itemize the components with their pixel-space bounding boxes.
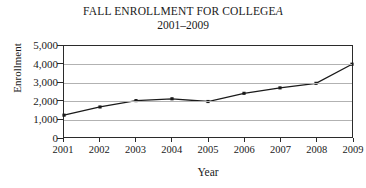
gridline bbox=[64, 101, 352, 102]
y-axis-tick-mark bbox=[57, 82, 63, 83]
data-point-marker bbox=[242, 92, 245, 95]
series-polyline bbox=[64, 64, 352, 115]
data-point-marker bbox=[98, 105, 101, 108]
y-axis-tick-label: 2,000 bbox=[0, 96, 58, 107]
data-point-marker bbox=[62, 114, 65, 117]
data-series-line bbox=[64, 46, 352, 137]
y-axis-tick-mark bbox=[57, 100, 63, 101]
chart-subtitle: 2001–2009 bbox=[0, 18, 366, 32]
y-axis-tick-label: 0 bbox=[0, 133, 58, 144]
x-axis-tick-mark bbox=[208, 138, 209, 142]
x-axis-title: Year bbox=[63, 166, 353, 178]
x-axis-tick-mark bbox=[244, 138, 245, 142]
page-title: FALL ENROLLMENT FOR COLLEGEA bbox=[0, 4, 366, 18]
gridline bbox=[64, 120, 352, 121]
x-axis-tick-mark bbox=[135, 138, 136, 142]
x-axis-tick-mark bbox=[171, 138, 172, 142]
data-point-marker bbox=[278, 86, 281, 89]
x-axis-tick-mark bbox=[63, 138, 64, 142]
x-axis-tick-mark bbox=[280, 138, 281, 142]
chart-title-college-letter: A bbox=[276, 5, 283, 17]
x-axis-tick-label: 2002 bbox=[79, 144, 119, 156]
x-axis-tick-label: 2001 bbox=[43, 144, 83, 156]
x-axis-tick-label: 2009 bbox=[333, 144, 366, 156]
x-axis-tick-mark bbox=[99, 138, 100, 142]
enrollment-line-chart: FALL ENROLLMENT FOR COLLEGEA 2001–2009 E… bbox=[0, 0, 366, 188]
gridline bbox=[64, 64, 352, 65]
x-axis-tick-label: 2007 bbox=[261, 144, 301, 156]
y-axis-tick-label: 3,000 bbox=[0, 77, 58, 88]
x-axis-tick-label: 2008 bbox=[297, 144, 337, 156]
x-axis-tick-mark bbox=[353, 138, 354, 142]
gridline bbox=[64, 83, 352, 84]
y-axis-tick-mark bbox=[57, 63, 63, 64]
plot-area bbox=[63, 45, 353, 138]
y-axis-tick-label: 1,000 bbox=[0, 114, 58, 125]
y-axis-tick-mark bbox=[57, 119, 63, 120]
chart-title-text: FALL ENROLLMENT FOR COLLEGE bbox=[83, 5, 276, 17]
data-point-marker bbox=[170, 97, 173, 100]
x-axis-tick-mark bbox=[316, 138, 317, 142]
x-axis-tick-label: 2006 bbox=[224, 144, 264, 156]
y-axis-tick-label: 5,000 bbox=[0, 40, 58, 51]
chart-title-block: FALL ENROLLMENT FOR COLLEGEA 2001–2009 bbox=[0, 4, 366, 32]
x-axis-tick-label: 2004 bbox=[152, 144, 192, 156]
y-axis-tick-label: 4,000 bbox=[0, 59, 58, 70]
y-axis-tick-mark bbox=[57, 45, 63, 46]
x-axis-tick-label: 2005 bbox=[188, 144, 228, 156]
x-axis-tick-label: 2003 bbox=[116, 144, 156, 156]
